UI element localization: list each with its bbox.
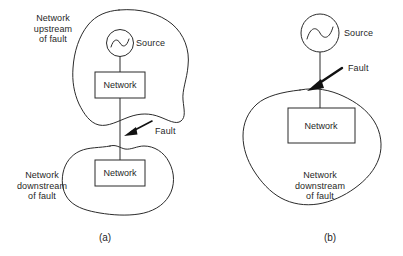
panel-b-source-label: Source: [344, 28, 373, 39]
panel-a-fault-arrowhead-icon: [124, 127, 138, 136]
panel-a-upstream-label: Network upstream of fault: [34, 13, 72, 45]
panel-a-source-label: Source: [136, 38, 165, 49]
panel-a-upstream-network-label: Network: [103, 80, 136, 90]
panel-b-caption: (b): [324, 232, 336, 243]
panel-b-fault-label: Fault: [348, 63, 369, 74]
panel-a-fault-label: Fault: [155, 126, 176, 137]
panel-a-downstream-label: Network downstream of fault: [17, 170, 67, 202]
panel-a-caption: (a): [99, 232, 111, 243]
panel-b-network-label: Network: [304, 121, 337, 131]
panel-a-upstream-region-outline: [73, 10, 189, 126]
panel-a-downstream-network-label: Network: [103, 168, 136, 178]
fault-location-diagram: Network upstream of fault Source Network…: [0, 0, 403, 256]
panel-b-downstream-label: Network downstream of fault: [295, 170, 345, 202]
